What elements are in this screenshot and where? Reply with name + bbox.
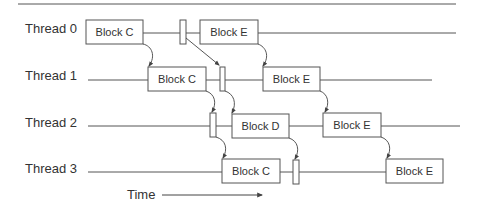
thread-0-row: Thread 0 Block C Block E bbox=[25, 20, 456, 44]
arrow-t1e-to-t2e bbox=[320, 91, 328, 112]
thread-3-block-c: Block C bbox=[222, 159, 280, 183]
time-axis: Time bbox=[127, 187, 262, 202]
thread-3-block-e: Block E bbox=[386, 159, 443, 183]
block-label: Block D bbox=[242, 120, 280, 132]
block-label: Block C bbox=[96, 26, 134, 38]
thread-1-row: Thread 1 Block C Block E bbox=[25, 67, 432, 91]
block-label: Block E bbox=[273, 73, 310, 85]
block-label: Block C bbox=[158, 73, 196, 85]
arrow-t2bar-to-t3c bbox=[216, 137, 226, 158]
thread-timeline-diagram: Thread 0 Block C Block E Thread 1 Block … bbox=[0, 0, 480, 214]
thread-0-block-c: Block C bbox=[86, 20, 143, 44]
block-label: Block C bbox=[232, 165, 270, 177]
dependency-arrows bbox=[143, 38, 390, 159]
block-label: Block E bbox=[333, 119, 370, 131]
arrow-t1bar-to-t2d bbox=[225, 91, 234, 113]
arrow-t0c-to-t1c bbox=[143, 44, 153, 66]
thread-2-sync-barrier bbox=[210, 113, 216, 137]
thread-2-label: Thread 2 bbox=[25, 115, 77, 130]
thread-3-sync-barrier bbox=[293, 160, 299, 184]
arrow-t1c-to-t2bar bbox=[206, 91, 215, 112]
thread-1-block-c: Block C bbox=[148, 67, 206, 91]
thread-2-block-d: Block D bbox=[232, 114, 289, 138]
thread-3-label: Thread 3 bbox=[25, 161, 77, 176]
thread-0-block-e: Block E bbox=[200, 20, 258, 44]
thread-2-row: Thread 2 Block D Block E bbox=[25, 113, 460, 138]
thread-0-sync-barrier bbox=[180, 20, 186, 44]
thread-0-label: Thread 0 bbox=[25, 21, 77, 36]
arrow-t2e-to-t3e bbox=[381, 137, 390, 158]
time-axis-label: Time bbox=[127, 187, 155, 202]
thread-1-block-e: Block E bbox=[263, 67, 320, 91]
thread-1-label: Thread 1 bbox=[25, 68, 77, 83]
thread-3-row: Thread 3 Block C Block E bbox=[25, 159, 443, 184]
thread-1-sync-barrier bbox=[220, 67, 225, 91]
thread-2-block-e: Block E bbox=[323, 113, 381, 137]
block-label: Block E bbox=[396, 165, 433, 177]
arrow-t0e-to-t1e bbox=[258, 44, 267, 66]
arrow-t2d-to-t3bar bbox=[289, 138, 298, 159]
block-label: Block E bbox=[210, 26, 247, 38]
